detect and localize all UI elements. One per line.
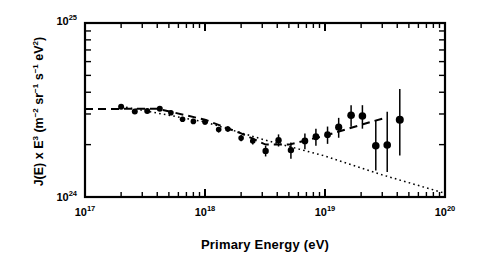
x-axis-label: Primary Energy (eV) [201, 237, 329, 252]
data-point [191, 119, 197, 125]
y-axis-label: J(E) x E3 (m−2 sr−1 s−1 eV2) [31, 0, 46, 227]
spectrum-plot: 101710181019102010241025Primary Energy (… [0, 0, 479, 263]
svg-text:1017: 1017 [75, 204, 96, 218]
data-point [383, 112, 391, 172]
data-point [225, 126, 231, 132]
data-point [118, 104, 124, 110]
tick-labels-group: 101710181019102010241025Primary Energy (… [56, 13, 455, 252]
data-point [238, 135, 244, 141]
data-point [335, 118, 342, 138]
data-point [168, 110, 174, 116]
data-point [324, 127, 331, 144]
data-point [132, 109, 138, 115]
data-point [359, 105, 367, 128]
data-point [144, 108, 150, 114]
data-point [180, 116, 186, 122]
axes-frame [85, 23, 445, 197]
data-point [202, 119, 208, 125]
data-point [157, 106, 163, 112]
data-point [216, 127, 222, 133]
svg-text:1020: 1020 [435, 204, 456, 218]
y-axis-label-text: J(E) x E3 (m−2 sr−1 s−1 eV2) [33, 37, 47, 187]
svg-text:1024: 1024 [56, 189, 77, 203]
data-point [262, 146, 268, 157]
svg-text:1025: 1025 [56, 13, 77, 27]
data-point [396, 89, 404, 156]
figure-root: 101710181019102010241025Primary Energy (… [0, 0, 479, 263]
svg-text:1019: 1019 [315, 204, 336, 218]
svg-text:1018: 1018 [195, 204, 216, 218]
data-point [302, 133, 309, 149]
data-points-group [118, 89, 404, 172]
data-point [313, 129, 320, 146]
data-point [347, 105, 355, 127]
data-point [372, 120, 380, 170]
